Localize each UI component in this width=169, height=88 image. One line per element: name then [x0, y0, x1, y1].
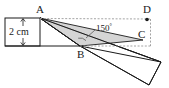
vertex-label-d: D: [143, 3, 151, 15]
geometry-figure-container: 2 cm 150° A B C D: [0, 0, 169, 88]
vertex-d-dot: [145, 18, 149, 22]
geometry-figure-svg: 2 cm 150° A B C D: [0, 0, 169, 88]
vertex-label-c: C: [138, 28, 145, 40]
angle-measure-label: 150°: [96, 23, 113, 33]
vertex-label-b: B: [77, 48, 84, 60]
degree-symbol: °: [110, 23, 113, 29]
width-measure-label: 2 cm: [9, 26, 29, 37]
vertex-label-a: A: [36, 3, 44, 15]
angle-measure-value: 150: [96, 23, 110, 33]
shaded-triangle-abc: [40, 18, 143, 46]
dashed-line-a-to-d: [40, 19, 151, 20]
